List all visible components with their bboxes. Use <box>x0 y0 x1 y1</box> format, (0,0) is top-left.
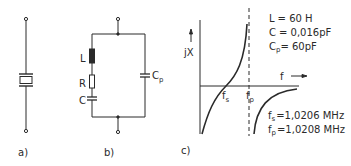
result-fp: fp=1,0208 MHz <box>268 124 345 137</box>
param-L: L= 60 H <box>269 13 313 24</box>
result-list: fs=1,0206 MHz fp=1,0208 MHz <box>268 110 345 137</box>
parameter-list: L= 60 H C= 0,016pF Cp= 60pF <box>269 13 332 54</box>
panel-c-label: c) <box>181 145 190 156</box>
inductor-L <box>90 49 95 63</box>
resistor-R <box>90 75 95 88</box>
label-R: R <box>79 78 86 89</box>
label-Cp: Cp <box>152 70 164 84</box>
crystal-diagram: a) L R C Cp b) <box>0 0 351 166</box>
panel-a-label: a) <box>18 147 28 158</box>
fs-label: fs <box>222 90 230 104</box>
panel-b-label: b) <box>104 147 114 158</box>
crystal-body <box>20 77 32 84</box>
y-arrow-icon <box>190 29 193 34</box>
reactance-curve-series <box>202 24 247 134</box>
panel-a <box>19 17 33 132</box>
param-C: C= 0,016pF <box>269 27 332 38</box>
x-arrow-icon <box>302 75 307 78</box>
terminal-bottom-a <box>24 129 27 132</box>
y-axis-label: jX <box>183 47 194 58</box>
panel-b <box>87 17 150 133</box>
terminal-bottom-b <box>116 130 119 133</box>
fp-label: fp <box>246 90 255 104</box>
label-C: C <box>79 95 86 106</box>
label-L: L <box>80 53 86 64</box>
result-fs: fs=1,0206 MHz <box>268 110 344 123</box>
terminal-top-b <box>116 17 119 20</box>
x-axis-label: f <box>280 71 284 82</box>
terminal-top-a <box>24 17 27 20</box>
param-Cp: Cp= 60pF <box>269 41 317 54</box>
